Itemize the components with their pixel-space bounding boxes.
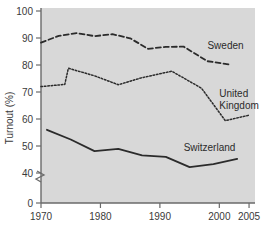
turnout-line-chart: 0405060708090100 19701980199020002005 Sw… xyxy=(0,0,265,232)
x-tick-label: 1990 xyxy=(149,211,172,222)
series-label-united-kingdom: United xyxy=(219,88,248,99)
x-tick-group: 19701980199020002005 xyxy=(30,203,261,222)
series-label-sweden: Sweden xyxy=(207,40,243,51)
chart-canvas: 0405060708090100 19701980199020002005 Sw… xyxy=(0,0,265,232)
y-axis-title: Turnout (%) xyxy=(4,92,15,144)
y-tick-label: 70 xyxy=(22,87,34,98)
y-tick-label: 0 xyxy=(27,198,33,209)
series-label-switzerland: Switzerland xyxy=(184,142,236,153)
y-tick-label: 60 xyxy=(22,114,34,125)
y-tick-label: 100 xyxy=(16,6,33,17)
x-tick-label: 2000 xyxy=(208,211,231,222)
y-tick-label: 80 xyxy=(22,60,34,71)
y-tick-label: 50 xyxy=(22,141,34,152)
x-tick-label: 1970 xyxy=(30,211,53,222)
x-tick-label: 2005 xyxy=(238,211,261,222)
x-tick-label: 1980 xyxy=(89,211,112,222)
series-label-united-kingdom: Kingdom xyxy=(219,100,258,111)
y-tick-label: 40 xyxy=(22,168,34,179)
y-tick-label: 90 xyxy=(22,33,34,44)
